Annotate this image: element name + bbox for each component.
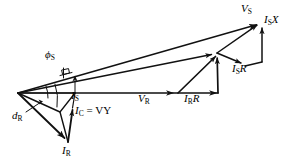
phasor-diagram-figure: VS ISX ISR IRR VR IS IC = VY IR ϕS dR: [0, 0, 301, 165]
isr-isx-connector: [245, 62, 262, 66]
vector-isz: [217, 25, 257, 53]
label-isr: ISR: [232, 63, 247, 74]
label-is: IS: [71, 90, 79, 101]
phasor-diagram-canvas: [0, 0, 301, 165]
label-vr: VR: [138, 93, 150, 104]
vector-irr: [217, 58, 218, 93]
vector-vr-plus-irr: [178, 57, 216, 94]
vector-vs-inner: [18, 55, 212, 94]
label-isx: ISX: [264, 14, 279, 25]
vector-ic: [68, 110, 73, 142]
label-dr: dR: [12, 110, 23, 121]
vector-isr: [217, 53, 241, 63]
label-vs: VS: [241, 3, 252, 14]
angle-arc-dr-outer: [55, 84, 58, 107]
label-ir: IR: [62, 145, 71, 156]
label-phis: ϕS: [45, 49, 55, 60]
label-ic: IC = VY: [75, 105, 111, 116]
label-irr: IRR: [184, 93, 199, 104]
